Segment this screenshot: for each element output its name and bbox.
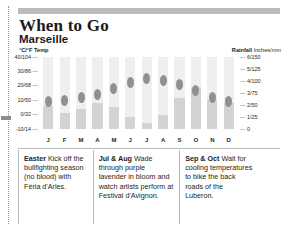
legend-rainfall: Rainfall Inches/mm [232,47,281,53]
y-tick-left: 40/104 — [12,54,38,60]
chart-column [158,57,168,129]
chart-column [125,57,135,129]
x-tick-month: A [90,137,104,143]
temperature-marker [45,96,52,107]
x-tick-month: N [205,137,219,143]
rainfall-bar [207,100,217,129]
y-tick-right: — 0 [240,126,286,132]
rainfall-bar [158,115,168,129]
y-tick-left: 0/32 — [12,111,38,117]
temperature-marker [94,89,101,100]
rainfall-bar [142,123,152,129]
y-tick-right: — 2/50 [240,102,286,108]
x-tick-month: D [222,137,236,143]
x-tick-month: J [123,137,137,143]
left-dotted-rule [8,6,9,224]
legend-rainfall-units: Inches/mm [252,47,281,53]
rainfall-bar [92,103,102,129]
x-tick-month: A [156,137,170,143]
y-tick-right: — 1/25 [240,114,286,120]
legend-rainfall-label: Rainfall [232,47,252,53]
chart-column [224,57,234,129]
top-rule [18,8,280,14]
note-lead: Jul & Aug [99,154,132,163]
x-tick-month: O [189,137,203,143]
temperature-marker [78,92,85,103]
page-subtitle: Marseille [19,33,68,45]
temperature-marker [209,92,216,103]
note-lead: Easter [24,154,46,163]
x-tick-month: F [58,137,72,143]
note-box: Easter Kick off the bullfighting season … [18,150,93,224]
y-tick-left: -10/14 — [12,126,38,132]
y-tick-right: — 3/75 [240,90,286,96]
temperature-marker [176,79,183,90]
chart-plot-area [40,57,237,129]
note-box: Jul & Aug Wade through purple lavender i… [93,150,179,224]
when-to-go-panel: When to Go Marseille °C/°F Temp Rainfall… [0,0,288,230]
chart-column [142,57,152,129]
legend-temperature: °C/°F Temp [19,47,49,53]
temperature-marker [160,75,167,86]
x-tick-month: S [173,137,187,143]
x-tick-month: M [107,137,121,143]
rainfall-bar [76,109,86,129]
temperature-marker [127,77,134,88]
rainfall-bar [125,117,135,129]
chart-column [43,57,53,129]
rainfall-bar [60,113,70,129]
chart-column [60,57,70,129]
notes-top-rule [18,148,280,149]
y-tick-right: — 4/100 [240,78,286,84]
y-tick-left: 30/86 — [12,68,38,74]
chart-column [174,57,184,129]
climate-chart [40,57,237,129]
notes-row: Easter Kick off the bullfighting season … [18,150,280,224]
y-tick-right: — 6/150 [240,54,286,60]
temperature-marker [61,95,68,106]
y-tick-right: — 5/125 [240,66,286,72]
x-tick-month: M [74,137,88,143]
y-tick-left: 20/68 — [12,82,38,88]
x-tick-month: J [41,137,55,143]
x-tick-month: J [140,137,154,143]
left-margin-tick [1,116,11,120]
rainfall-bar [174,98,184,129]
rainfall-bar [109,107,119,129]
y-tick-left: 10/50 — [12,97,38,103]
note-lead: Sep & Oct [185,154,219,163]
note-box: Sep & Oct Wait for cooling temperatures … [179,150,258,224]
rainfall-bar [43,106,53,129]
